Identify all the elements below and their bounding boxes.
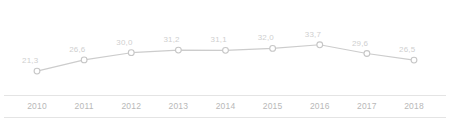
x-axis-label-2017: 2017 [347, 102, 387, 111]
x-axis-label-2015: 2015 [253, 102, 293, 111]
x-axis-label-2013: 2013 [158, 102, 198, 111]
x-axis-label-2016: 2016 [300, 102, 340, 111]
data-point-marker [81, 57, 87, 63]
data-point-marker [223, 47, 229, 53]
data-point-marker [364, 51, 370, 57]
data-point-marker [411, 57, 417, 63]
data-point-marker [34, 68, 40, 74]
x-axis-label-2014: 2014 [206, 102, 246, 111]
x-axis-label-2012: 2012 [111, 102, 151, 111]
data-point-marker [270, 46, 276, 52]
data-point-marker [128, 50, 134, 56]
x-axis-label-2011: 2011 [64, 102, 104, 111]
axis-rule-top [4, 95, 446, 96]
axis-rule-bottom [4, 117, 446, 118]
data-point-marker [317, 42, 323, 48]
x-axis-label-2010: 2010 [17, 102, 57, 111]
x-axis-label-2018: 2018 [394, 102, 434, 111]
line-chart: 21,326,630,031,231,132,033,729,626,5 201… [0, 0, 450, 124]
data-point-marker [175, 47, 181, 53]
series-markers [34, 42, 417, 74]
